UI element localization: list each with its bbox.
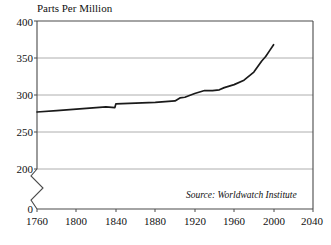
chart-title: Parts Per Million <box>37 2 112 15</box>
y-tick-label-350: 350 <box>1 53 33 64</box>
chart-canvas <box>0 0 331 245</box>
x-tick-label-1840: 1840 <box>96 216 136 227</box>
x-tick-label-1920: 1920 <box>175 216 215 227</box>
y-tick-label-400: 400 <box>1 17 33 28</box>
x-tick-label-1800: 1800 <box>56 216 96 227</box>
chart-figure: Parts Per Million 400 350 300 250 200 0 <box>0 0 331 245</box>
y-axis-tick-labels: 400 350 300 250 200 0 <box>0 0 33 245</box>
x-tick-label-1960: 1960 <box>214 216 254 227</box>
y-tick-label-200: 200 <box>1 164 33 175</box>
y-tick-label-250: 250 <box>1 127 33 138</box>
source-note: Source: Worldwatch Institute <box>186 190 297 201</box>
y-tick-label-300: 300 <box>1 90 33 101</box>
plot-frame <box>37 21 313 209</box>
x-tick-label-1760: 1760 <box>17 216 57 227</box>
x-tick-label-1880: 1880 <box>135 216 175 227</box>
x-tick-label-2000: 2000 <box>254 216 294 227</box>
data-series-line <box>37 45 274 112</box>
y-tick-label-0: 0 <box>1 204 33 215</box>
x-tick-label-2040: 2040 <box>292 216 331 227</box>
gridlines <box>37 58 313 169</box>
